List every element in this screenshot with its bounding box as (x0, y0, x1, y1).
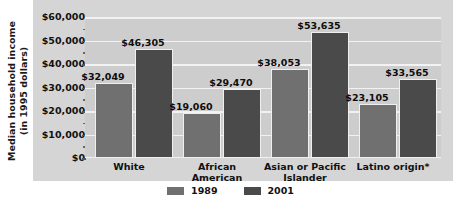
bar-latino-origin-2001[interactable] (399, 79, 437, 158)
bar-african-american-1989[interactable] (183, 113, 221, 158)
category-label-african-american: African American (173, 161, 261, 183)
y-tick-label: $10,000 (29, 130, 85, 140)
y-tick-label: $30,000 (29, 83, 85, 93)
category-label-asian-pacific-islander-line1: Asian or Pacific (264, 161, 346, 172)
bar-value-asian-pacific-islander-2001: $53,635 (280, 20, 358, 31)
bar-asian-pacific-islander-1989[interactable] (271, 69, 309, 158)
bar-value-latino-origin-2001: $33,565 (368, 67, 446, 78)
bar-value-white-2001: $46,305 (104, 37, 182, 48)
category-label-african-american-line1: African American (192, 161, 242, 183)
y-tick-mark (82, 158, 86, 160)
bar-group-latino-origin (359, 17, 437, 158)
chart-legend: 1989 2001 (0, 186, 461, 206)
y-tick-label: $40,000 (29, 59, 85, 69)
chart-figure: Median household income (in 1995 dollars… (0, 0, 461, 209)
legend-swatch-2001-icon (244, 187, 261, 195)
category-label-white: White (85, 161, 173, 172)
category-label-asian-pacific-islander: Asian or Pacific Islander (261, 161, 349, 183)
bar-latino-origin-1989[interactable] (359, 104, 397, 158)
category-label-white-line1: White (113, 161, 144, 172)
bar-value-asian-pacific-islander-1989: $38,053 (240, 57, 318, 68)
y-tick-label: $20,000 (29, 106, 85, 116)
y-axis: $60,000 $50,000 $40,000 $30,000 $20,000 … (22, 0, 85, 181)
bar-value-latino-origin-1989: $23,105 (328, 92, 406, 103)
legend-item-2001[interactable]: 2001 (244, 186, 294, 196)
bar-white-1989[interactable] (95, 83, 133, 158)
legend-label-1989: 1989 (191, 186, 217, 196)
y-axis-title-line1: Median household income (6, 21, 17, 161)
bar-value-african-american-1989: $19,060 (152, 101, 230, 112)
bar-group-asian-pacific-islander (271, 17, 349, 158)
category-label-latino-origin-line1: Latino origin* (356, 161, 429, 172)
category-label-asian-pacific-islander-line2: Islander (283, 172, 327, 183)
bar-value-african-american-2001: $29,470 (192, 77, 270, 88)
category-label-latino-origin: Latino origin* (349, 161, 437, 172)
y-tick-label: $60,000 (29, 12, 85, 22)
legend-item-1989[interactable]: 1989 (167, 186, 217, 196)
legend-swatch-1989-icon (167, 187, 184, 195)
bar-african-american-2001[interactable] (223, 89, 261, 158)
bar-value-white-1989: $32,049 (64, 71, 142, 82)
legend-label-2001: 2001 (268, 186, 294, 196)
y-tick-label: $0 (29, 153, 85, 163)
y-tick-label: $50,000 (29, 36, 85, 46)
